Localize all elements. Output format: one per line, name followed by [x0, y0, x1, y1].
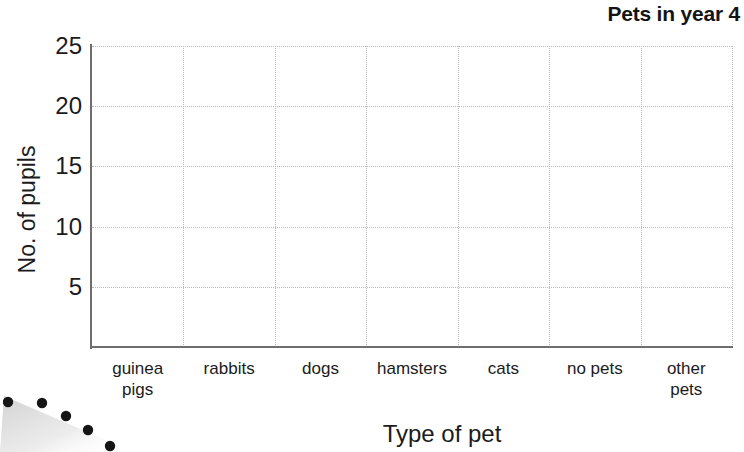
y-axis-tick-label: 15	[12, 152, 82, 180]
x-axis-category-label: hamsters	[366, 358, 457, 379]
gridline-vertical	[458, 46, 459, 347]
gridline-horizontal	[92, 227, 732, 228]
plot-area	[92, 46, 732, 347]
x-axis-category-label-line: guinea	[92, 358, 183, 379]
gridline-horizontal	[92, 106, 732, 107]
y-axis-tick-label: 20	[12, 92, 82, 120]
gridline-horizontal	[92, 46, 732, 47]
y-axis-tick-label: 25	[12, 32, 82, 60]
y-axis-tick-label: 10	[12, 213, 82, 241]
x-axis-category-label-line: rabbits	[183, 358, 274, 379]
gridline-vertical	[732, 46, 733, 347]
x-axis-category-label: otherpets	[641, 358, 732, 400]
x-axis-line	[90, 346, 733, 348]
x-axis-category-label-line: dogs	[275, 358, 366, 379]
x-axis-category-label-line: pets	[641, 379, 732, 400]
gridline-vertical	[641, 46, 642, 347]
x-axis-title: Type of pet	[222, 420, 662, 448]
x-axis-category-label-line: cats	[458, 358, 549, 379]
chart-page: Pets in year 4 No. of pupils 252015105 g…	[0, 0, 744, 452]
x-axis-category-label-line: no pets	[549, 358, 640, 379]
y-axis-tick-labels: 252015105	[0, 0, 82, 452]
x-axis-category-labels: guineapigsrabbitsdogshamsterscatsno pets…	[92, 358, 732, 418]
gridline-vertical	[275, 46, 276, 347]
gridline-horizontal	[92, 287, 732, 288]
x-axis-category-label-line: pigs	[92, 379, 183, 400]
y-axis-line	[90, 44, 92, 349]
x-axis-category-label: no pets	[549, 358, 640, 379]
gridline-vertical	[183, 46, 184, 347]
x-axis-category-label-line: hamsters	[366, 358, 457, 379]
gridline-vertical	[366, 46, 367, 347]
y-axis-tick-label: 5	[12, 273, 82, 301]
x-axis-category-label: dogs	[275, 358, 366, 379]
chart-title: Pets in year 4	[400, 2, 740, 26]
x-axis-category-label: cats	[458, 358, 549, 379]
gridline-vertical	[549, 46, 550, 347]
x-axis-category-label: rabbits	[183, 358, 274, 379]
x-axis-category-label-line: other	[641, 358, 732, 379]
x-axis-category-label: guineapigs	[92, 358, 183, 400]
gridline-horizontal	[92, 166, 732, 167]
